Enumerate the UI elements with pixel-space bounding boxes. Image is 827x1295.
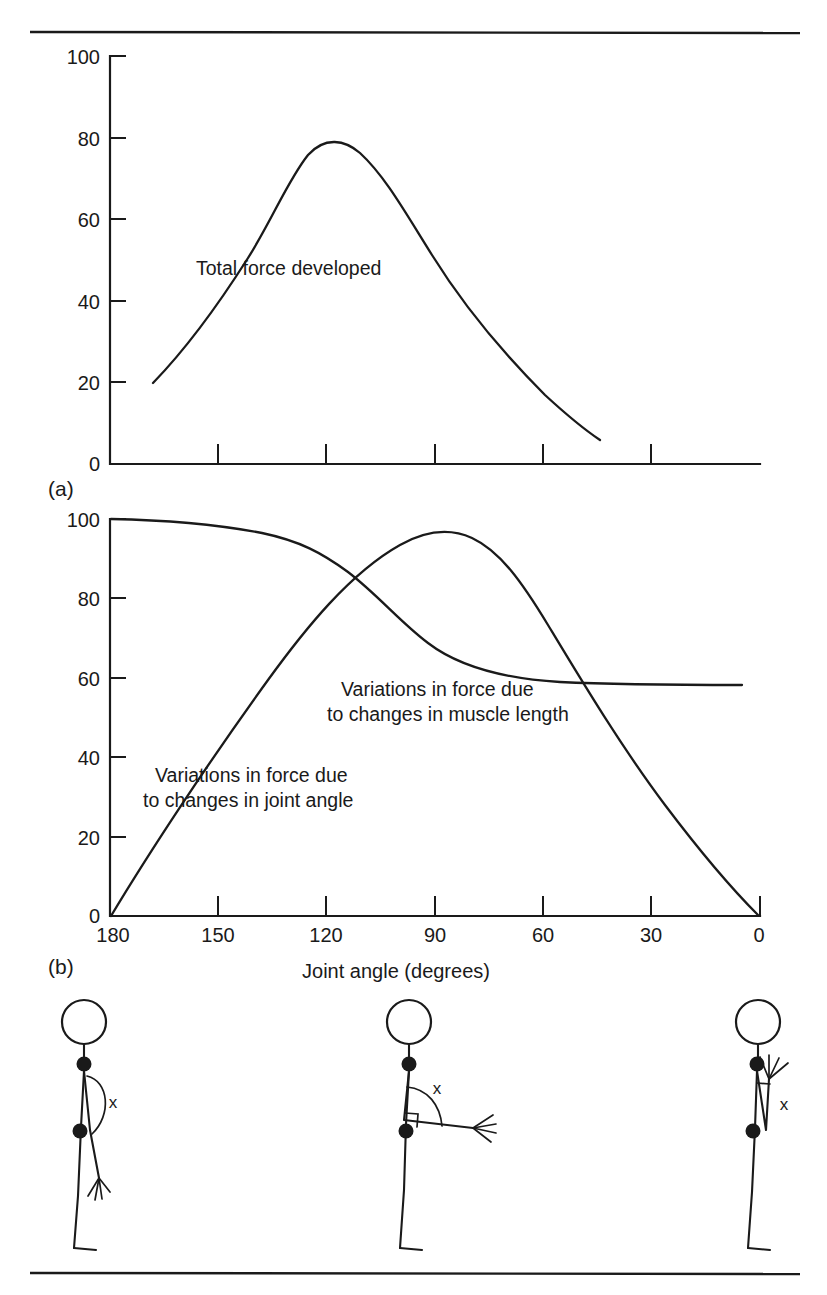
panel-a-annotation-total-force: Total force developed — [196, 257, 381, 279]
stick-figure-3-elbow-joint — [746, 1124, 761, 1139]
stick-figure-extended-180: x — [62, 1000, 118, 1250]
panel-b-xtick-60: 60 — [532, 924, 554, 946]
panel-b-x-ticks — [218, 896, 651, 916]
top-rule — [30, 32, 800, 33]
panel-b-ytick-60: 60 — [78, 668, 100, 690]
stick-figure-2-foot — [400, 1248, 422, 1250]
stick-figure-1-elbow-joint — [73, 1124, 88, 1139]
stick-figure-3-torso-leg — [748, 1071, 757, 1248]
panel-b-xtick-120: 120 — [309, 924, 342, 946]
panel-a-ytick-80: 80 — [78, 128, 100, 150]
panel-b-annotation-muscle-length-line2: to changes in muscle length — [327, 703, 569, 725]
panel-b-curve-muscle-length — [111, 519, 742, 685]
chart-panel-b: 100 80 60 40 20 0 180 150 120 90 — [48, 509, 765, 982]
stick-figure-3-head-icon — [736, 1000, 780, 1044]
figure-canvas: 100 80 60 40 20 0 Total force developed … — [0, 0, 827, 1295]
stick-figure-1-shoulder-joint — [77, 1057, 92, 1072]
panel-a-ytick-100: 100 — [67, 46, 100, 68]
stick-figure-2-elbow-joint — [399, 1124, 414, 1139]
panel-b-y-tick-labels: 100 80 60 40 20 0 — [67, 509, 100, 927]
panel-a-y-tick-labels: 100 80 60 40 20 0 — [67, 46, 100, 475]
panel-a-ytick-40: 40 — [78, 291, 100, 313]
stick-figure-2-hand-icon — [473, 1115, 496, 1142]
stick-figure-1-arm — [84, 1071, 99, 1178]
panel-b-letter: (b) — [48, 955, 74, 978]
panel-b-ytick-40: 40 — [78, 747, 100, 769]
stick-figure-flexed-90: x — [387, 1000, 496, 1250]
stick-figure-1-torso-leg — [74, 1071, 84, 1248]
stick-figure-3-hand-icon — [760, 1055, 788, 1079]
panel-b-xtick-90: 90 — [424, 924, 446, 946]
panel-a-y-ticks — [110, 56, 126, 382]
chart-panel-a: 100 80 60 40 20 0 Total force developed … — [48, 46, 760, 500]
stick-figure-2-shoulder-joint — [402, 1057, 417, 1072]
panel-b-xtick-30: 30 — [640, 924, 662, 946]
stick-figure-2-head-icon — [387, 1000, 431, 1044]
panel-b-annotation-joint-angle-line2: to changes in joint angle — [143, 789, 353, 811]
figure-root: 100 80 60 40 20 0 Total force developed … — [0, 0, 827, 1295]
panel-b-xtick-180: 180 — [96, 924, 129, 946]
panel-a-ytick-60: 60 — [78, 209, 100, 231]
stick-figure-1-foot — [74, 1248, 96, 1250]
stick-figure-3-angle-label: x — [780, 1095, 789, 1114]
panel-b-x-tick-labels: 180 150 120 90 60 30 0 — [96, 924, 764, 946]
stick-figure-2-angle-label: x — [433, 1079, 442, 1098]
panel-b-annotation-joint-angle-line1: Variations in force due — [155, 764, 348, 786]
panel-b-xtick-150: 150 — [201, 924, 234, 946]
stick-figure-3-arm — [757, 1071, 769, 1130]
bottom-rule — [30, 1273, 800, 1274]
panel-b-y-ticks — [110, 519, 126, 837]
panel-b-ytick-80: 80 — [78, 588, 100, 610]
stick-figure-3-angle-arc — [757, 1083, 770, 1084]
stick-figure-2-torso-leg — [400, 1071, 409, 1248]
panel-a-x-ticks — [218, 444, 651, 464]
panel-a-ytick-0: 0 — [89, 453, 100, 475]
panel-a-curve-total-force — [153, 142, 600, 440]
stick-figure-3-foot — [748, 1248, 770, 1250]
panel-b-annotation-muscle-length-line1: Variations in force due — [341, 678, 534, 700]
panel-b-xtick-0: 0 — [753, 924, 764, 946]
panel-b-ytick-20: 20 — [78, 827, 100, 849]
stick-figure-1-hand-icon — [88, 1178, 110, 1200]
panel-b-ytick-100: 100 — [67, 509, 100, 531]
x-axis-title: Joint angle (degrees) — [302, 960, 490, 982]
stick-figure-flexed-0: x — [736, 1000, 789, 1250]
panel-a-letter: (a) — [48, 477, 74, 500]
stick-figure-1-head-icon — [62, 1000, 106, 1044]
stick-figure-1-angle-label: x — [109, 1093, 118, 1112]
panel-a-ytick-20: 20 — [78, 372, 100, 394]
